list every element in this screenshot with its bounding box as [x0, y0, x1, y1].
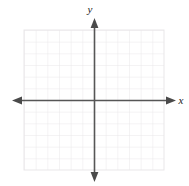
x-axis-label: x [178, 94, 184, 106]
x-axis-arrow-left-icon [12, 97, 22, 105]
coordinate-plane-svg: y x [0, 0, 189, 186]
y-axis-arrow-down-icon [91, 172, 99, 182]
x-axis-arrow-right-icon [166, 97, 176, 105]
y-axis-label: y [87, 3, 93, 15]
coordinate-plane-figure: y x [0, 0, 189, 186]
y-axis-arrow-up-icon [91, 18, 99, 28]
